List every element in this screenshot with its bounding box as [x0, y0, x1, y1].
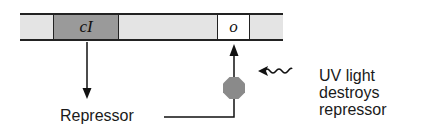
- uv-light-wave-icon: [258, 66, 292, 76]
- repressor-protein-icon: [223, 77, 245, 99]
- expression-arrow-icon: [83, 42, 92, 99]
- uv-light-label: UV light destroys repressor: [319, 67, 426, 118]
- repressor-label: Repressor: [60, 107, 134, 124]
